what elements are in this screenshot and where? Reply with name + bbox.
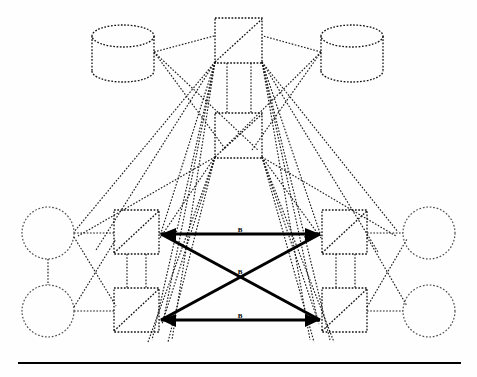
link-db-topleft-mid-b <box>154 52 258 150</box>
link-fan-top-l1 <box>74 62 215 232</box>
circle-right-upper[interactable] <box>403 207 455 259</box>
router-top[interactable] <box>215 18 262 63</box>
database-top-right[interactable] <box>321 25 383 82</box>
link-fan-mid-l2 <box>160 157 215 238</box>
node-group <box>22 18 455 337</box>
circle-right-lower[interactable] <box>403 285 455 337</box>
link-fan-top-r6 <box>262 62 310 340</box>
router-left-lower[interactable] <box>114 288 159 332</box>
router-left-upper[interactable] <box>114 210 159 254</box>
database-top-left[interactable] <box>92 25 154 82</box>
link-fan-top-l6 <box>172 62 215 340</box>
link-db-topleft-router-top <box>154 36 214 52</box>
circle-left-lower[interactable] <box>22 285 74 337</box>
link-fan-top-l5 <box>152 62 215 340</box>
link-cross-right-down <box>367 237 407 306</box>
router-upper-middle[interactable] <box>215 113 262 158</box>
link-cross-left-down <box>74 237 116 306</box>
edge-label-group: B B B <box>238 226 243 320</box>
label-backbone-center: B <box>238 268 243 276</box>
router-right-lower[interactable] <box>322 288 367 332</box>
link-fan-top-r5 <box>262 62 330 340</box>
label-backbone-top: B <box>238 226 243 234</box>
link-fan-top-l4 <box>163 62 215 322</box>
topology-canvas: B B B <box>0 0 477 377</box>
link-fan-mid-l1 <box>78 157 215 236</box>
link-db-topright-router-top <box>263 36 321 52</box>
link-cross-left-up <box>74 239 116 307</box>
link-fan-top-r2 <box>262 62 378 252</box>
link-fan-mid-r1 <box>262 157 396 236</box>
network-topology-figure: B B B <box>0 0 477 377</box>
access-link-group <box>48 36 407 342</box>
label-backbone-bottom: B <box>238 312 243 320</box>
circle-left-upper[interactable] <box>22 207 74 259</box>
link-fan-top-r3 <box>262 62 321 236</box>
link-fan-top-l3 <box>160 62 215 236</box>
link-fan-top-r4 <box>262 62 318 322</box>
link-fan-mid-l4 <box>148 157 215 342</box>
router-right-upper[interactable] <box>322 210 367 254</box>
link-cross-right-up <box>367 239 407 307</box>
link-db-topright-mid-b <box>222 52 321 150</box>
